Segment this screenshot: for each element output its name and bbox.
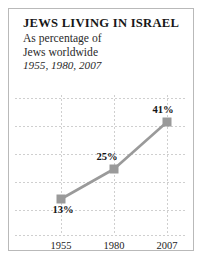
page-title: JEWS LIVING IN ISRAEL (23, 16, 188, 31)
gridlines-horizontal (15, 99, 187, 236)
x-axis-tick-2007: 2007 (157, 240, 178, 251)
data-label-2007: 41% (152, 104, 173, 115)
chart-card: JEWS LIVING IN ISRAEL As percentage of J… (8, 8, 194, 251)
chart-header: JEWS LIVING IN ISRAEL As percentage of J… (23, 16, 188, 73)
chart-subtitle-line-1: As percentage of (23, 32, 188, 46)
data-point-marker (163, 118, 172, 127)
data-label-1955: 13% (52, 204, 73, 215)
x-axis-tick-1980: 1980 (104, 240, 125, 251)
data-point-marker (57, 195, 66, 204)
data-point-marker (110, 165, 119, 174)
chart-subtitle-line-2: Jews worldwide (23, 46, 188, 60)
data-label-1980: 25% (96, 151, 117, 162)
chart-years-annotation: 1955, 1980, 2007 (23, 59, 188, 73)
x-axis-tick-1955: 1955 (51, 240, 72, 251)
chart-plot-area: 13% 25% 41% 1955 1980 2007 (9, 83, 193, 251)
chart-subtitle: As percentage of Jews worldwide (23, 32, 188, 59)
